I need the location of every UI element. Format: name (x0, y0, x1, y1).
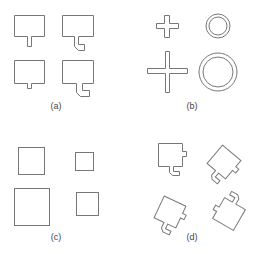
panel-b-shapes (148, 14, 238, 93)
panel-a-shapes (15, 16, 94, 97)
cross-shape (148, 52, 188, 93)
ring-inner-shape (209, 17, 227, 35)
square-shape (76, 153, 94, 171)
rotated-hook-square-shape (209, 188, 250, 231)
panel-c-shapes (15, 148, 99, 226)
cross-shape (157, 16, 179, 38)
panel-d-shapes (150, 144, 250, 238)
rotated-hook-square-shape (201, 145, 244, 188)
square-shape (15, 189, 50, 226)
panel-label-b: (b) (172, 101, 212, 111)
square-shape (19, 148, 45, 175)
panel-label-c: (c) (36, 232, 76, 242)
square-shape (77, 193, 99, 216)
tab-rectangle-shape (15, 61, 45, 89)
ring-inner-shape (203, 57, 233, 87)
panel-label-a: (a) (36, 101, 76, 111)
hook-rectangle-shape (63, 61, 94, 97)
rotated-hook-square-shape (159, 144, 187, 176)
ring-outer-shape (199, 53, 237, 91)
figure-canvas (0, 0, 256, 254)
tab-rectangle-shape (15, 16, 45, 47)
panel-label-d: (d) (172, 232, 212, 242)
hook-rectangle-shape (63, 16, 94, 51)
ring-outer-shape (206, 14, 230, 38)
